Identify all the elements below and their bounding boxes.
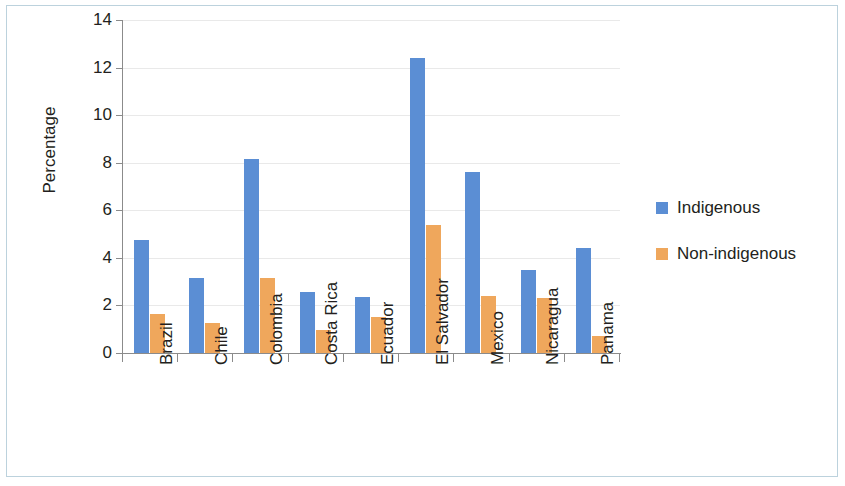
x-axis-tick: [232, 354, 233, 362]
x-axis-category-label: Mexico: [489, 245, 506, 365]
y-axis-tick-label: 0: [78, 344, 112, 361]
y-axis-tick-label: 8: [78, 154, 112, 171]
y-axis-tick: [116, 68, 123, 69]
legend-label: Indigenous: [677, 198, 760, 218]
bar-indigenous: [134, 240, 149, 353]
bar-indigenous: [465, 172, 480, 353]
x-axis-category-label: Panama: [599, 245, 616, 365]
x-axis-category-label: Colombia: [268, 245, 285, 365]
y-axis-tick: [116, 210, 123, 211]
y-axis-tick: [116, 115, 123, 116]
bar-indigenous: [576, 248, 591, 353]
bar-indigenous: [189, 278, 204, 353]
y-axis-tick-label: 6: [78, 201, 112, 218]
x-axis-tick: [288, 354, 289, 362]
x-axis-category-label: Ecuador: [379, 245, 396, 365]
y-axis-tick-label: 12: [78, 59, 112, 76]
y-axis-tick: [116, 163, 123, 164]
y-axis-tick-label: 14: [78, 11, 112, 28]
y-axis-tick-labels: 02468101214: [72, 0, 112, 486]
x-axis-tick: [398, 354, 399, 362]
y-axis-tick-label: 10: [78, 106, 112, 123]
legend-item: Indigenous: [656, 198, 836, 218]
x-axis-category-label: Brazil: [158, 245, 175, 365]
x-axis-tick: [122, 354, 123, 362]
x-axis-category-label: Costa Rica: [323, 245, 340, 365]
x-axis-tick: [564, 354, 565, 362]
y-axis-tick: [116, 258, 123, 259]
bar-indigenous: [355, 297, 370, 353]
chart-figure: Percentage 02468101214 BrazilChileColomb…: [0, 0, 845, 486]
y-axis-tick-label: 2: [78, 296, 112, 313]
bar-indigenous: [244, 159, 259, 353]
y-axis-tick: [116, 20, 123, 21]
x-axis-category-label: El Salvador: [434, 245, 451, 365]
x-axis-tick: [177, 354, 178, 362]
bar-indigenous: [300, 292, 315, 353]
legend-item: Non-indigenous: [656, 244, 836, 264]
x-axis-tick: [509, 354, 510, 362]
y-axis-tick: [116, 305, 123, 306]
chart-legend: IndigenousNon-indigenous: [656, 198, 836, 290]
x-axis-tick: [453, 354, 454, 362]
bar-indigenous: [521, 270, 536, 353]
x-axis-tick: [619, 354, 620, 362]
y-axis-title: Percentage: [40, 80, 60, 220]
legend-label: Non-indigenous: [677, 244, 796, 264]
bar-indigenous: [410, 58, 425, 353]
x-axis-tick: [343, 354, 344, 362]
x-axis-category-label: Nicaragua: [544, 245, 561, 365]
x-axis-category-label: Chile: [213, 245, 230, 365]
legend-swatch-icon: [656, 248, 668, 260]
legend-swatch-icon: [656, 202, 668, 214]
y-axis-tick-label: 4: [78, 249, 112, 266]
